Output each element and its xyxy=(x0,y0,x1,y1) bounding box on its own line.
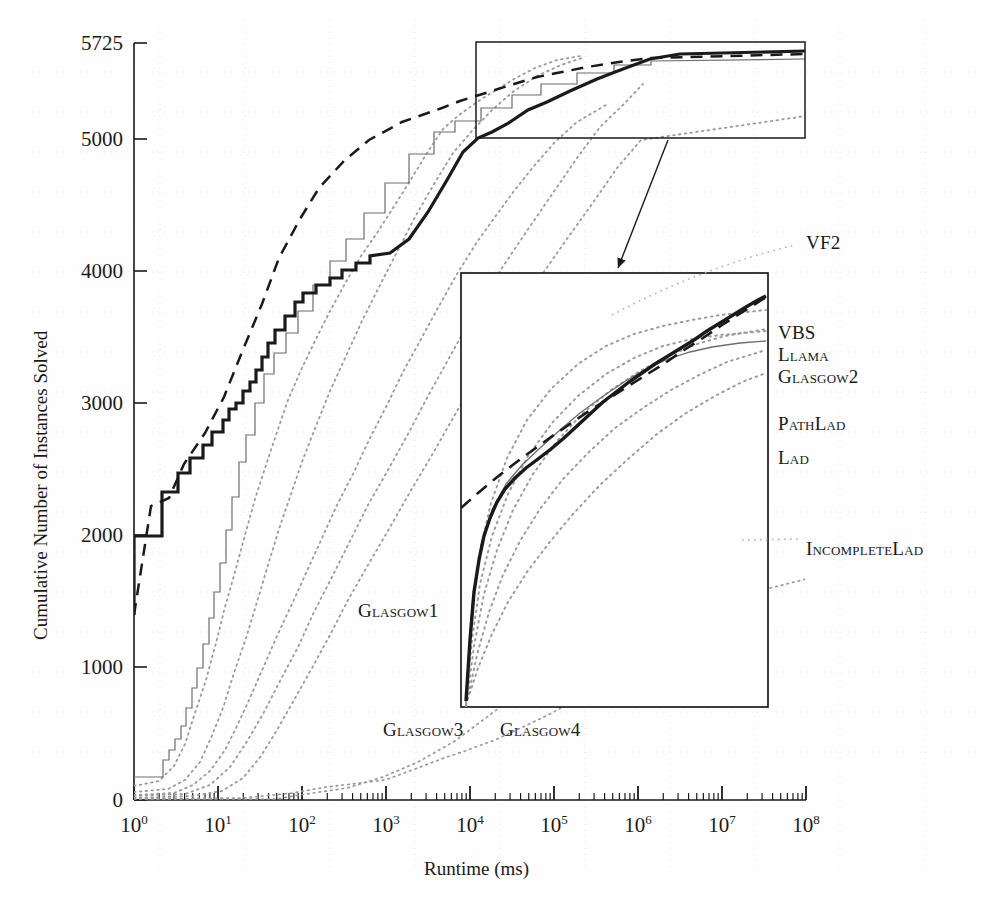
y-axis-title: Cumulative Number of Instances Solved xyxy=(30,331,52,640)
x-tick-1e2: 102 xyxy=(272,812,332,838)
series-label-vf2: VF2 xyxy=(806,232,840,254)
series-label-glasgow3: Glasgow3 xyxy=(383,719,463,741)
y-tick-5000: 5000 xyxy=(33,127,123,152)
x-tick-1e7: 107 xyxy=(692,812,752,838)
y-tick-0: 0 xyxy=(33,788,123,813)
series-label-glasgow2: Glasgow2 xyxy=(778,366,858,388)
x-tick-1e1: 101 xyxy=(188,812,248,838)
y-tick-4000: 4000 xyxy=(33,259,123,284)
series-label-glasgow4: Glasgow4 xyxy=(500,719,580,741)
series-label-pathlad: PathLad xyxy=(778,413,846,435)
series-label-lad: Lad xyxy=(778,447,809,469)
solver-runtime-cactus-plot xyxy=(0,0,982,905)
series-label-vbs: VBS xyxy=(778,322,816,344)
x-tick-1e8: 108 xyxy=(776,812,836,838)
x-tick-1e4: 104 xyxy=(440,812,500,838)
x-axis-title: Runtime (ms) xyxy=(424,858,529,880)
x-tick-1e6: 106 xyxy=(608,812,668,838)
series-label-glasgow1: Glasgow1 xyxy=(358,600,438,622)
inset-panel-frame xyxy=(461,273,768,707)
x-tick-1e0: 100 xyxy=(104,812,164,838)
y-tick-5725: 5725 xyxy=(33,31,123,56)
y-tick-1000: 1000 xyxy=(33,655,123,680)
x-tick-1e5: 105 xyxy=(524,812,584,838)
series-label-llama: Llama xyxy=(778,344,829,366)
series-label-incompletelad: IncompleteLad xyxy=(806,538,923,560)
x-tick-1e3: 103 xyxy=(356,812,416,838)
